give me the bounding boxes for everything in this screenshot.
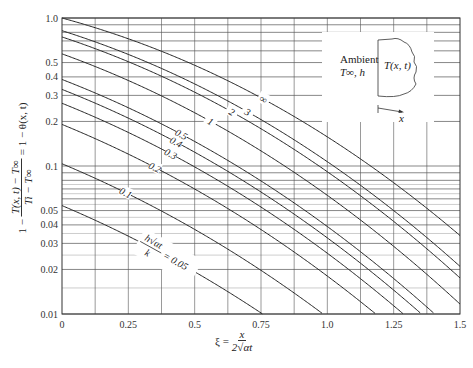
y-axis-title-denominator: Ti − T∞ bbox=[22, 169, 35, 204]
y-axis-title: 1 − T(x, t) − T∞ Ti − T∞ = 1 − θ(x, t) bbox=[9, 102, 35, 233]
y-axis-title-suffix: = 1 − θ(x, t) bbox=[16, 102, 28, 155]
y-tick-label: 0.04 bbox=[41, 219, 59, 230]
chart-svg: Ambient T∞, h T(x, t) x 0.10.20.30.40.51… bbox=[0, 0, 473, 368]
y-axis-title-fraction: T(x, t) − T∞ Ti − T∞ bbox=[9, 158, 35, 216]
y-tick-label: 0.3 bbox=[46, 90, 59, 101]
x-axis-title: ξ = x 2√αt bbox=[215, 328, 252, 354]
inset-ambient-conditions: T∞, h bbox=[340, 66, 365, 78]
inset-diagram: Ambient T∞, h T(x, t) x bbox=[322, 32, 434, 124]
curve-label-0.1: 0.1 bbox=[118, 185, 134, 200]
x-tick-label: 0.75 bbox=[252, 319, 270, 330]
y-axis-title-prefix: 1 − bbox=[16, 219, 28, 233]
x-tick-label: 0.5 bbox=[188, 319, 201, 330]
x-axis-title-lhs: ξ = bbox=[215, 335, 229, 347]
inset-x-label: x bbox=[398, 112, 404, 124]
y-tick-label: 0.1 bbox=[46, 161, 59, 172]
curve-h-0.1 bbox=[62, 164, 322, 313]
y-tick-label: 0.05 bbox=[41, 205, 59, 216]
y-tick-label: 0.2 bbox=[46, 116, 59, 127]
x-tick-label: 1.0 bbox=[321, 319, 334, 330]
curve-h-0.2 bbox=[62, 124, 375, 313]
y-tick-label: 1.0 bbox=[46, 13, 59, 24]
y-tick-label: 0.5 bbox=[46, 57, 59, 68]
y-tick-label: 0.03 bbox=[41, 238, 59, 249]
x-tick-label: 0 bbox=[60, 319, 65, 330]
x-axis-title-denominator: 2√αt bbox=[232, 341, 252, 354]
curve-h-0.4 bbox=[62, 89, 420, 312]
x-axis-title-numerator: x bbox=[238, 328, 247, 341]
parameter-label: h√αtk= 0.05 bbox=[132, 228, 203, 284]
y-tick-label: 0.4 bbox=[46, 71, 59, 82]
x-axis-title-fraction: x 2√αt bbox=[232, 328, 252, 354]
inset-ambient-label: Ambient bbox=[340, 53, 379, 65]
x-tick-label: 0.25 bbox=[120, 319, 138, 330]
y-tick-label: 0.01 bbox=[41, 309, 59, 320]
inset-body-label: T(x, t) bbox=[384, 59, 411, 72]
y-axis-title-numerator: T(x, t) − T∞ bbox=[9, 158, 22, 216]
x-tick-label: 1.5 bbox=[454, 319, 467, 330]
x-tick-label: 1.25 bbox=[385, 319, 403, 330]
y-tick-label: 0.02 bbox=[41, 264, 59, 275]
curve-h-0.3 bbox=[62, 103, 403, 313]
